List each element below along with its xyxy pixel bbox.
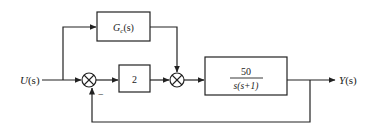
feedforward-output-line: [150, 27, 177, 72]
summing-junction-2: [170, 73, 184, 87]
feedback-minus-sign: −: [98, 89, 104, 100]
block-diagram: U(s) Gc(s) − 2: [0, 0, 373, 133]
output-label: Y(s): [339, 74, 357, 87]
gain-block-label: 2: [132, 74, 137, 85]
plant-numerator: 50: [241, 66, 251, 77]
feedforward-branch-line: [63, 27, 96, 80]
input-label: U(s): [20, 74, 40, 87]
summing-junction-1: [82, 73, 96, 87]
plant-denominator: s(s+1): [234, 81, 259, 92]
